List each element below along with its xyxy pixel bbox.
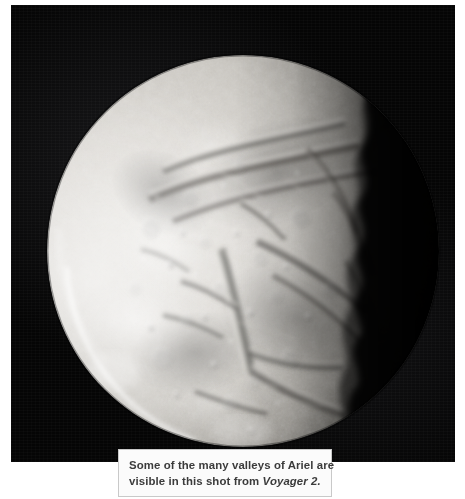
limb-highlight [47, 55, 439, 447]
ariel-moon-image [45, 53, 441, 449]
ariel-photograph [11, 5, 455, 462]
caption-line-1: Some of the many valleys of Ariel are [129, 457, 322, 473]
figure-page: Some of the many valleys of Ariel are vi… [0, 0, 465, 499]
caption-source-name: Voyager 2. [263, 475, 321, 487]
ariel-moon-svg [45, 53, 441, 449]
figure-caption: Some of the many valleys of Ariel are vi… [118, 449, 332, 497]
caption-line-2: visible in this shot from Voyager 2. [129, 473, 322, 489]
caption-line-2-text: visible in this shot from [129, 475, 263, 487]
